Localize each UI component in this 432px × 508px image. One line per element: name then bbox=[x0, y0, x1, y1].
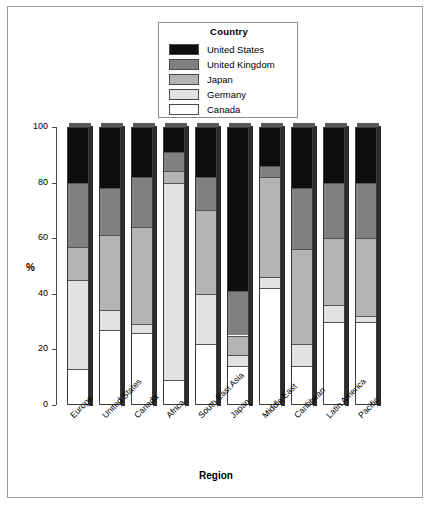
bar-segment-germany[interactable] bbox=[131, 324, 153, 332]
legend-label-canada: Canada bbox=[207, 103, 240, 116]
bar-top-face bbox=[165, 123, 187, 127]
bar-pacific[interactable] bbox=[355, 127, 377, 405]
legend-swatch-united-kingdom bbox=[169, 59, 199, 70]
bar-top-face bbox=[69, 123, 91, 127]
bar-segment-germany[interactable] bbox=[291, 344, 313, 366]
bar-segment-germany[interactable] bbox=[323, 305, 345, 322]
bar-top-face bbox=[229, 123, 251, 127]
bar-segment-united-kingdom[interactable] bbox=[323, 183, 345, 239]
bar-segment-japan[interactable] bbox=[99, 235, 121, 310]
y-tick bbox=[52, 349, 56, 350]
legend-label-united-states: United States bbox=[207, 43, 264, 56]
legend-swatch-canada bbox=[169, 104, 199, 115]
bar-shadow bbox=[345, 126, 349, 406]
stacked-bar-chart: Country United States United Kingdom Jap… bbox=[0, 0, 432, 508]
bar-segment-japan[interactable] bbox=[67, 247, 89, 280]
bar-top-face bbox=[293, 123, 315, 127]
bar-segment-japan[interactable] bbox=[259, 177, 281, 277]
bar-segment-united-kingdom[interactable] bbox=[163, 152, 185, 171]
bar-middle-east[interactable] bbox=[259, 127, 281, 405]
bar-latin-america[interactable] bbox=[323, 127, 345, 405]
bar-segment-germany[interactable] bbox=[227, 355, 249, 366]
legend-label-germany: Germany bbox=[207, 88, 246, 101]
bar-segment-germany[interactable] bbox=[163, 183, 185, 380]
bar-shadow bbox=[217, 126, 221, 406]
bar-top-face bbox=[133, 123, 155, 127]
bar-segment-united-kingdom[interactable] bbox=[259, 166, 281, 177]
y-axis-line bbox=[56, 127, 57, 405]
bar-top-face bbox=[101, 123, 123, 127]
bar-segment-germany[interactable] bbox=[99, 310, 121, 329]
legend-swatch-united-states bbox=[169, 44, 199, 55]
bar-segment-united-states[interactable] bbox=[67, 127, 89, 183]
bar-africa[interactable] bbox=[163, 127, 185, 405]
bar-japan[interactable] bbox=[227, 127, 249, 405]
y-tick bbox=[52, 405, 56, 406]
legend-title: Country bbox=[159, 26, 299, 37]
y-tick bbox=[52, 294, 56, 295]
bar-shadow bbox=[185, 126, 189, 406]
bar-segment-united-states[interactable] bbox=[131, 127, 153, 177]
bar-segment-united-states[interactable] bbox=[323, 127, 345, 183]
bar-shadow bbox=[313, 126, 317, 406]
bar-segment-united-kingdom[interactable] bbox=[195, 177, 217, 210]
bar-segment-japan[interactable] bbox=[291, 249, 313, 344]
y-axis-title: % bbox=[26, 262, 35, 273]
bar-top-face bbox=[357, 123, 379, 127]
bar-europe[interactable] bbox=[67, 127, 89, 405]
bar-segment-japan[interactable] bbox=[323, 238, 345, 305]
bar-segment-united-kingdom[interactable] bbox=[131, 177, 153, 227]
bar-segment-united-kingdom[interactable] bbox=[67, 183, 89, 247]
legend-label-japan: Japan bbox=[207, 73, 233, 86]
y-tick-label: 80 bbox=[22, 177, 48, 187]
bar-segment-japan[interactable] bbox=[163, 171, 185, 182]
bar-top-face bbox=[325, 123, 347, 127]
bar-shadow bbox=[249, 126, 253, 406]
bar-shadow bbox=[377, 126, 381, 406]
bar-shadow bbox=[89, 126, 93, 406]
y-tick-label: 20 bbox=[22, 343, 48, 353]
y-tick bbox=[52, 183, 56, 184]
bar-segment-united-kingdom[interactable] bbox=[99, 188, 121, 235]
y-tick-label: 40 bbox=[22, 288, 48, 298]
y-tick bbox=[52, 238, 56, 239]
bar-segment-united-states[interactable] bbox=[195, 127, 217, 177]
bar-segment-germany[interactable] bbox=[355, 316, 377, 322]
x-axis-title: Region bbox=[0, 470, 432, 481]
legend-swatch-japan bbox=[169, 74, 199, 85]
bar-segment-united-states[interactable] bbox=[355, 127, 377, 183]
bar-segment-germany[interactable] bbox=[67, 280, 89, 369]
bar-segment-united-kingdom[interactable] bbox=[227, 291, 249, 335]
bar-top-face bbox=[261, 123, 283, 127]
bar-south-east-asia[interactable] bbox=[195, 127, 217, 405]
bar-segment-united-kingdom[interactable] bbox=[291, 188, 313, 249]
bar-segment-united-kingdom[interactable] bbox=[355, 183, 377, 239]
y-tick-label: 100 bbox=[22, 121, 48, 131]
chart-legend: Country United States United Kingdom Jap… bbox=[158, 22, 298, 118]
bar-segment-united-states[interactable] bbox=[163, 127, 185, 152]
bar-segment-germany[interactable] bbox=[259, 277, 281, 288]
bar-shadow bbox=[121, 126, 125, 406]
bar-segment-japan[interactable] bbox=[227, 336, 249, 355]
bar-segment-united-states[interactable] bbox=[227, 127, 249, 291]
legend-label-united-kingdom: United Kingdom bbox=[207, 58, 275, 71]
y-tick-label: 0 bbox=[22, 399, 48, 409]
bar-segment-united-states[interactable] bbox=[99, 127, 121, 188]
bar-shadow bbox=[153, 126, 157, 406]
y-tick-label: 60 bbox=[22, 232, 48, 242]
bar-canada[interactable] bbox=[131, 127, 153, 405]
bar-segment-japan[interactable] bbox=[355, 238, 377, 316]
bar-shadow bbox=[281, 126, 285, 406]
bar-segment-canada[interactable] bbox=[259, 288, 281, 405]
bar-segment-united-states[interactable] bbox=[259, 127, 281, 166]
legend-swatch-germany bbox=[169, 89, 199, 100]
bar-top-face bbox=[197, 123, 219, 127]
y-tick bbox=[52, 127, 56, 128]
bar-segment-japan[interactable] bbox=[131, 227, 153, 324]
bar-caribbean[interactable] bbox=[291, 127, 313, 405]
bar-united-states[interactable] bbox=[99, 127, 121, 405]
bar-segment-germany[interactable] bbox=[195, 294, 217, 344]
bar-segment-united-states[interactable] bbox=[291, 127, 313, 188]
bar-segment-japan[interactable] bbox=[195, 210, 217, 293]
